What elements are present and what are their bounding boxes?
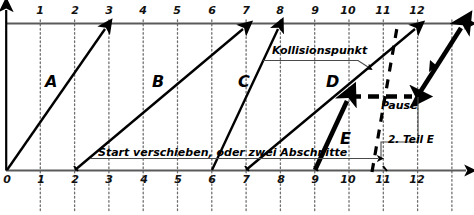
top-tick-8: 8 [270, 4, 290, 17]
top-tick-5: 5 [167, 4, 187, 17]
segment-label-c: C [238, 72, 250, 91]
top-tick-1: 1 [30, 4, 50, 17]
segment-label-d: D [326, 72, 339, 91]
diagram-canvas: 1 2 3 4 5 6 7 8 9 10 11 12 0 1 2 3 4 5 6… [0, 0, 474, 215]
bottom-tick-2: 2 [65, 173, 85, 186]
top-tick-3: 3 [99, 4, 119, 17]
bottom-tick-7: 7 [236, 173, 256, 186]
top-tick-11: 11 [373, 4, 393, 17]
bottom-tick-8: 8 [271, 173, 291, 186]
top-tick-12: 12 [407, 4, 427, 17]
top-tick-4: 4 [133, 4, 153, 17]
bottom-tick-6: 6 [202, 173, 222, 186]
bottom-tick-0: 0 [0, 173, 17, 186]
top-tick-10: 10 [338, 4, 358, 17]
bottom-tick-12: 12 [407, 173, 427, 186]
second-part-label: 2. Teil E [388, 133, 434, 145]
bottom-tick-4: 4 [134, 173, 154, 186]
bottom-tick-9: 9 [305, 173, 325, 186]
bottom-tick-3: 3 [99, 173, 119, 186]
top-tick-9: 9 [305, 4, 325, 17]
segment-a-line [7, 29, 105, 170]
start-shift-label: Start verschieben, oder zwei Abschnitte [98, 146, 347, 159]
bottom-tick-5: 5 [168, 173, 188, 186]
segment-label-a: A [45, 72, 57, 91]
segment-label-b: B [152, 72, 164, 91]
bottom-tick-1: 1 [31, 173, 51, 186]
pause-label: Pause [381, 99, 418, 112]
collision-leader [263, 61, 368, 68]
bottom-tick-10: 10 [338, 173, 358, 186]
top-tick-2: 2 [65, 4, 85, 17]
bottom-tick-11: 11 [373, 173, 393, 186]
collision-point-label: Kollisionspunkt [272, 44, 367, 57]
segment-e-second-part [417, 28, 461, 97]
top-tick-7: 7 [236, 4, 256, 17]
top-tick-6: 6 [202, 4, 222, 17]
